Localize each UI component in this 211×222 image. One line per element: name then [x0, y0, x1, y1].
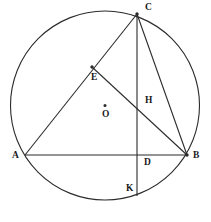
vertex-dot-C — [135, 12, 138, 15]
segment-CB — [137, 14, 187, 155]
vertex-dot-E — [90, 65, 93, 68]
center-dot-O — [104, 104, 107, 107]
point-label-H: H — [145, 96, 153, 106]
point-label-O: O — [102, 110, 110, 120]
point-label-K: K — [126, 184, 134, 194]
point-label-C: C — [145, 3, 152, 13]
point-label-A: A — [12, 151, 19, 161]
point-label-E: E — [91, 73, 98, 83]
point-label-B: B — [193, 151, 200, 161]
geometry-figure: A B C D E H K O — [0, 0, 211, 222]
point-label-D: D — [144, 158, 151, 168]
vertex-dot-B — [185, 153, 188, 156]
